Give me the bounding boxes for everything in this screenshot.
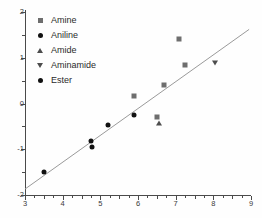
plot-area: 210-1-2 3456789 AmineAnilineAmideAminami… [0,0,262,218]
triangle-down-marker-icon [34,63,46,68]
data-point-aminamide [212,61,218,66]
data-point-amine [162,83,167,88]
diamond-marker-icon [34,78,46,83]
square-marker-icon [34,18,46,23]
legend-item-aminamide[interactable]: Aminamide [34,58,96,73]
data-point-ester [41,170,46,175]
triangle-up-marker-icon [34,48,46,53]
scatter-chart: 210-1-2 3456789 AmineAnilineAmideAminami… [0,0,262,218]
legend-label: Aniline [51,31,78,40]
legend-label: Amine [51,16,77,25]
data-point-aniline [90,144,95,149]
data-point-amine [132,93,137,98]
legend-item-amide[interactable]: Amide [34,43,96,58]
data-point-aniline [88,139,93,144]
legend-label: Amide [51,46,77,55]
data-point-aniline [132,112,137,117]
data-point-aniline [105,123,110,128]
legend-label: Ester [51,76,72,85]
legend-label: Aminamide [51,61,96,70]
data-point-amine [154,115,159,120]
data-point-amine [183,62,188,67]
chart-legend: AmineAnilineAmideAminamideEster [34,13,96,88]
legend-item-amine[interactable]: Amine [34,13,96,28]
legend-item-ester[interactable]: Ester [34,73,96,88]
data-point-amine [177,37,182,42]
data-point-amide [156,121,162,126]
circle-marker-icon [34,33,46,38]
legend-item-aniline[interactable]: Aniline [34,28,96,43]
